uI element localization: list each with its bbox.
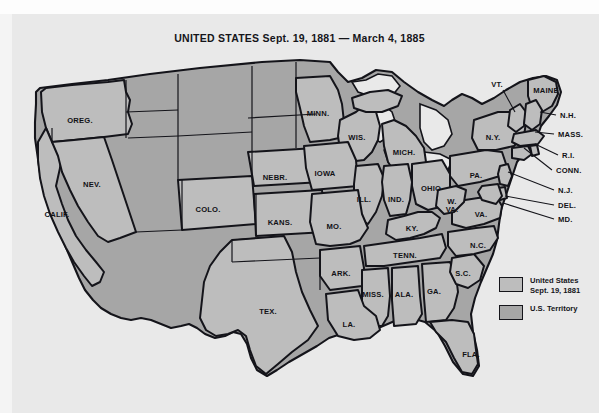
label-michigan: MICH. (393, 148, 416, 157)
label-iowa: IOWA (314, 169, 335, 178)
label-alabama: ALA. (395, 290, 414, 299)
label-kansas: KANS. (268, 218, 293, 227)
label-new-york: N.Y. (486, 133, 501, 142)
state-new-hampshire (524, 100, 542, 130)
label-massachusetts: MASS. (558, 130, 583, 139)
state-iowa (304, 142, 358, 190)
label-rhode-island: R.I. (562, 151, 575, 160)
label-vermont: VT. (491, 80, 503, 89)
state-new-jersey (498, 164, 512, 186)
state-connecticut (512, 146, 532, 160)
label-louisiana: LA. (343, 320, 356, 329)
state-indiana (382, 164, 412, 216)
label-illinois: ILL. (357, 195, 371, 204)
label-tennessee: TENN. (393, 251, 417, 260)
label-colorado: COLO. (195, 205, 220, 214)
label-georgia: GA. (427, 287, 441, 296)
state-colorado (178, 176, 256, 230)
territory-swatch (499, 305, 523, 320)
label-florida: FLA. (462, 350, 480, 359)
legend-label-us-territory: U.S. Territory (530, 304, 578, 314)
label-ohio: OHIO (421, 184, 441, 193)
label-arkansas: ARK. (331, 269, 350, 278)
label-pennsylvania: PA. (470, 171, 483, 180)
state-florida (430, 320, 478, 374)
label-indiana: IND. (388, 195, 404, 204)
label-nevada: NEV. (83, 180, 101, 189)
label-california: CALIF. (45, 210, 70, 219)
label-wisconsin: WIS. (348, 133, 365, 142)
leader-line-maryland (503, 203, 554, 219)
leader-line-new-jersey (508, 172, 554, 190)
label-maryland: MD. (558, 215, 573, 224)
label-missouri: MO. (327, 222, 342, 231)
leader-line-delaware (505, 196, 554, 205)
label-delaware: DEL. (558, 201, 576, 210)
us-map-graphic (0, 0, 599, 413)
state-oregon (41, 80, 132, 142)
label-kentucky: KY. (406, 224, 418, 233)
label-nebraska: NEBR. (263, 173, 288, 182)
legend-label-united-states: United States Sept. 19, 1881 (530, 276, 580, 295)
label-texas: TEX. (259, 307, 277, 316)
label-west-virginia: W.VA. (446, 198, 459, 214)
legend-line1: United States (530, 276, 580, 286)
label-connecticut: CONN. (556, 166, 581, 175)
label-new-hampshire: N.H. (560, 111, 576, 120)
label-new-jersey: N.J. (558, 186, 573, 195)
label-virginia: VA. (475, 210, 488, 219)
label-maine: MAINE (533, 86, 558, 95)
legend-line2: Sept. 19, 1881 (530, 286, 580, 296)
legend-item-us-territory: U.S. Territory (499, 304, 595, 320)
legend-item-united-states: United States Sept. 19, 1881 (499, 276, 595, 295)
map-legend: United States Sept. 19, 1881 U.S. Territ… (499, 276, 595, 329)
label-minnesota: MINN. (307, 109, 330, 118)
label-north-carolina: N.C. (470, 241, 486, 250)
label-oregon: OREG. (67, 116, 92, 125)
label-line2: VA. (446, 206, 459, 214)
label-mississippi: MISS. (362, 290, 384, 299)
label-south-carolina: S.C. (455, 269, 471, 278)
state-swatch (499, 277, 523, 292)
legend-line1: U.S. Territory (530, 304, 578, 314)
map-page: UNITED STATES Sept. 19, 1881 — March 4, … (0, 0, 599, 413)
